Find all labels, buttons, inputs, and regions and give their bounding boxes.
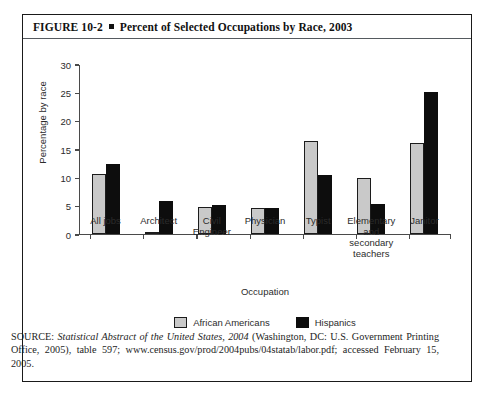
y-tick-label: 5 bbox=[66, 201, 71, 212]
bar-group bbox=[356, 64, 386, 234]
figure-title-bar: FIGURE 10-2 Percent of Selected Occupati… bbox=[23, 15, 471, 39]
y-tick-label: 25 bbox=[60, 88, 71, 99]
bar-group bbox=[303, 64, 333, 234]
y-tick-mark bbox=[75, 178, 79, 179]
y-tick-label: 10 bbox=[60, 173, 71, 184]
source-prefix: SOURCE: bbox=[11, 331, 57, 342]
title-bullet-icon bbox=[109, 24, 114, 29]
legend-label: Hispanics bbox=[315, 317, 356, 328]
chart-legend: African AmericansHispanics bbox=[79, 317, 451, 328]
figure-box: FIGURE 10-2 Percent of Selected Occupati… bbox=[22, 14, 472, 382]
bar-group bbox=[409, 64, 439, 234]
source-note: SOURCE: Statistical Abstract of the Unit… bbox=[11, 330, 439, 370]
bar-group bbox=[197, 64, 227, 234]
y-tick-mark bbox=[75, 121, 79, 122]
x-category-label: Janitor bbox=[386, 215, 462, 226]
figure-number: FIGURE 10-2 bbox=[33, 21, 103, 33]
x-tick-mark bbox=[303, 235, 304, 239]
y-tick-label: 0 bbox=[66, 230, 71, 241]
legend-item[interactable]: African Americans bbox=[174, 317, 270, 328]
y-tick-mark bbox=[75, 149, 79, 150]
bar-group bbox=[91, 64, 121, 234]
y-tick-label: 30 bbox=[60, 60, 71, 71]
source-italic-title: Statistical Abstract of the United State… bbox=[57, 331, 248, 342]
y-axis-title: Percentage by race bbox=[37, 48, 48, 198]
y-axis-line bbox=[79, 65, 80, 235]
bar-group bbox=[144, 64, 174, 234]
bar-group bbox=[250, 64, 280, 234]
y-tick-label: 20 bbox=[60, 116, 71, 127]
x-tick-mark bbox=[450, 235, 451, 239]
y-tick-label: 15 bbox=[60, 145, 71, 156]
bar[interactable] bbox=[145, 232, 159, 234]
plot-area: 051015202530 bbox=[79, 65, 451, 235]
legend-label: African Americans bbox=[193, 317, 270, 328]
x-tick-mark bbox=[143, 235, 144, 239]
bar[interactable] bbox=[424, 92, 438, 234]
legend-swatch bbox=[174, 317, 187, 328]
y-tick-mark bbox=[75, 64, 79, 65]
y-tick-mark bbox=[75, 234, 79, 235]
figure-title: Percent of Selected Occupations by Race,… bbox=[120, 21, 353, 33]
legend-swatch bbox=[296, 317, 309, 328]
chart-area: Percentage by race 051015202530 All jobs… bbox=[23, 39, 473, 327]
x-tick-mark bbox=[90, 235, 91, 239]
x-axis-title: Occupation bbox=[79, 286, 451, 297]
legend-item[interactable]: Hispanics bbox=[296, 317, 356, 328]
y-tick-mark bbox=[75, 93, 79, 94]
y-tick-mark bbox=[75, 206, 79, 207]
